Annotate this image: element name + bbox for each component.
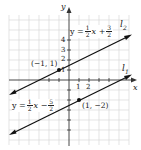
- y-tick-label: 1: [61, 67, 65, 74]
- y-axis-label: y: [61, 3, 66, 11]
- eq-text: x +: [92, 27, 106, 36]
- arrowhead-icon: [124, 35, 132, 41]
- line-subscript: 2: [123, 24, 127, 31]
- denominator: 2: [49, 106, 53, 112]
- y-axis-arrow-icon: [67, 7, 72, 13]
- line-label-l1: l1: [122, 64, 129, 75]
- y-tick-label: 4: [61, 37, 65, 44]
- equation-l2: y =12x +32: [70, 25, 113, 38]
- point-marker: [77, 98, 81, 102]
- x-axis-label: x: [133, 84, 138, 92]
- y-tick-label: 3: [61, 47, 65, 54]
- denominator: 2: [107, 32, 111, 38]
- equation-l1: y =12x −52: [12, 99, 55, 112]
- arrowhead-icon: [124, 75, 132, 81]
- fraction: 52: [48, 99, 54, 112]
- eq-text: y =: [70, 27, 84, 36]
- x-tick-label: 1: [76, 84, 80, 91]
- eq-text: x −: [34, 101, 48, 110]
- line-label-l2: l2: [120, 20, 127, 31]
- x-axis-arrow-icon: [131, 78, 137, 83]
- fraction: 12: [85, 25, 91, 38]
- fraction: 32: [106, 25, 112, 38]
- x-tick-label: 2: [86, 84, 90, 91]
- y-tick-label: 2: [61, 56, 65, 63]
- denominator: 2: [86, 32, 90, 38]
- line-subscript: 1: [125, 68, 129, 75]
- denominator: 2: [28, 106, 32, 112]
- point-label: (1, −2): [82, 102, 108, 110]
- eq-text: y =: [12, 101, 26, 110]
- point-label: (−1, 1): [31, 60, 57, 68]
- fraction: 12: [27, 99, 33, 112]
